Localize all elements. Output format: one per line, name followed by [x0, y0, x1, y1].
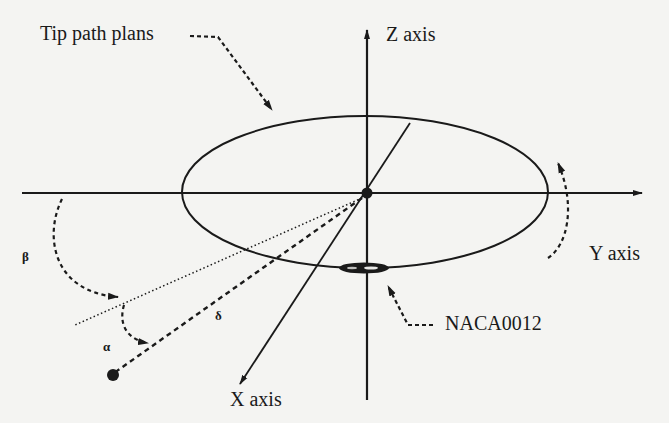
delta-label: δ	[215, 309, 222, 322]
origin-dot	[362, 188, 373, 199]
rotor-diagram: Tip path plans Z axis Y axis NACA0012 X …	[0, 0, 669, 423]
y-axis-label: Y axis	[589, 243, 640, 263]
alpha-label: α	[103, 340, 110, 353]
beta-angle-arc	[54, 199, 118, 297]
beta-label: β	[22, 250, 29, 263]
x-axis-line	[240, 123, 410, 384]
airfoil-shape	[339, 263, 389, 274]
z-axis-label: Z axis	[386, 24, 435, 44]
airfoil-label: NACA0012	[445, 313, 542, 333]
dashed-blade-line	[114, 198, 362, 373]
airfoil-leader	[388, 286, 433, 325]
tip-path-leader	[190, 36, 272, 110]
blade-tip-dot	[107, 369, 119, 381]
alpha-angle-arc	[122, 305, 148, 343]
rotation-arc	[548, 163, 568, 258]
tip-path-label: Tip path plans	[40, 23, 154, 43]
diagram-canvas	[0, 0, 669, 423]
x-axis-label: X axis	[230, 389, 282, 409]
